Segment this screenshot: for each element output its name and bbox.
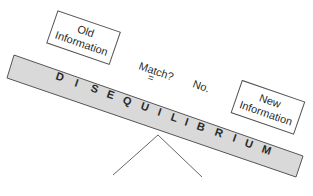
answer-label: No. <box>191 78 211 95</box>
old-information-box: Old Information <box>47 11 120 65</box>
fulcrum <box>113 135 202 177</box>
new-information-box: New Information <box>231 81 304 135</box>
match-label: Match? <box>137 60 175 83</box>
disequilibrium-diagram: D I S E Q U I L I B R I U M Old Informat… <box>0 0 313 196</box>
